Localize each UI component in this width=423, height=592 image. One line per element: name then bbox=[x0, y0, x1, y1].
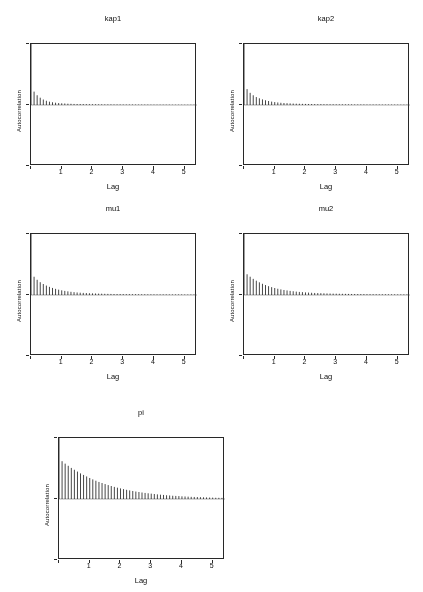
acf-panel-pi: pi12345AutocorrelationLag bbox=[0, 0, 423, 592]
x-tick-origin bbox=[58, 560, 59, 563]
acf-figure: ILERI ZAMAN kap112345AutocorrelationLagk… bbox=[0, 0, 423, 592]
x-tick-label: 4 bbox=[179, 562, 183, 569]
plot-frame bbox=[58, 437, 224, 559]
x-tick-label: 1 bbox=[87, 562, 91, 569]
y-tick bbox=[54, 559, 57, 560]
y-tick bbox=[54, 498, 57, 499]
panel-title: pi bbox=[58, 408, 224, 417]
x-tick-label: 2 bbox=[118, 562, 122, 569]
x-tick-label: 5 bbox=[210, 562, 214, 569]
x-axis-label: Lag bbox=[58, 576, 224, 585]
acf-bars bbox=[59, 438, 225, 560]
x-tick-label: 3 bbox=[148, 562, 152, 569]
y-axis-label: Autocorrelation bbox=[44, 484, 50, 526]
y-tick bbox=[54, 437, 57, 438]
